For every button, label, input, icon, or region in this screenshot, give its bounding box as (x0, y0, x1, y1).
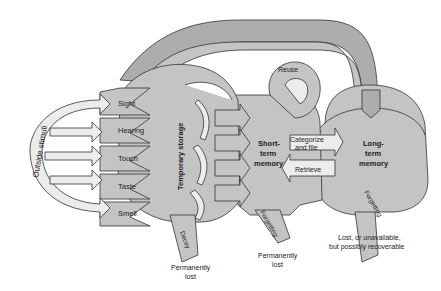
categorize-label-2: and file (295, 144, 318, 151)
sensory-outcome-1: Permanently (171, 264, 211, 272)
ltm-outcome-2: but possibly recoverable (329, 243, 405, 251)
short-term-memory-shape (235, 62, 322, 243)
categorize-label-1: Categorize (290, 136, 324, 144)
stm-outcome-1: Permanently (258, 252, 298, 260)
retrieve-label: Retrieve (295, 166, 321, 173)
stm-label-3: memory (254, 159, 284, 168)
ltm-label-3: memory (359, 159, 389, 168)
sense-label-hearing: Hearing (118, 126, 144, 135)
sense-label-taste: Taste (118, 182, 136, 191)
stm-label-1: Short- (258, 139, 281, 148)
ltm-label-1: Long- (363, 139, 384, 148)
stm-label-2: term (260, 149, 277, 158)
memory-model-diagram: .f { fill:#c4c4c4; stroke:#333; stroke-w… (0, 0, 441, 291)
temporary-storage-label: Temporary storage (176, 123, 185, 190)
sense-label-sight: Sight (118, 99, 136, 108)
reuse-label: Reuse (278, 66, 298, 73)
sense-label-smell: Smell (118, 209, 137, 218)
stm-outcome-2: lost (272, 261, 283, 268)
sensory-outcome-2: lost (185, 273, 196, 280)
ltm-label-2: term (365, 149, 382, 158)
sense-label-touch: Touch (118, 154, 138, 163)
ltm-outcome-1: Lost, or unavailable, (338, 234, 401, 241)
